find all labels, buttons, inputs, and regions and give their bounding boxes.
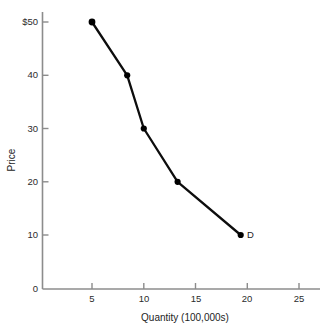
x-tick-label-10: 10 [131, 294, 157, 304]
x-tick-label-5: 5 [80, 294, 104, 304]
x-tick-label-25: 25 [286, 294, 312, 304]
plot-area [0, 0, 329, 333]
x-axis-title: Quantity (100,000s) [85, 313, 285, 323]
data-point [175, 179, 181, 185]
x-tick-label-20: 20 [234, 294, 260, 304]
data-point [141, 125, 147, 131]
y-axis-title: Price [7, 137, 17, 183]
y-axis-ticks [43, 22, 49, 235]
demand-curve-line [92, 22, 241, 235]
y-tick-label-40: 40 [2, 70, 38, 80]
data-point [89, 19, 96, 26]
x-tick-label-15: 15 [183, 294, 209, 304]
series-label-demand: D [247, 230, 254, 240]
data-point [124, 72, 130, 78]
y-tick-label-50: $50 [2, 17, 38, 27]
y-tick-label-30: 30 [2, 124, 38, 134]
y-tick-label-0: 0 [2, 284, 38, 294]
x-axis-ticks [92, 283, 299, 289]
demand-curve-chart: $50 40 30 20 10 0 5 10 15 20 25 Price Qu… [0, 0, 329, 333]
y-tick-label-10: 10 [2, 230, 38, 240]
data-point [238, 232, 244, 238]
